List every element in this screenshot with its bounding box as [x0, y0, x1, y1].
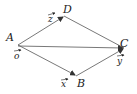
point-label-d: D — [62, 3, 72, 16]
point-label-b: B — [76, 77, 85, 90]
edge-d-c — [64, 16, 124, 48]
vector-label-x: x — [61, 79, 66, 89]
edge-b-c — [76, 49, 123, 76]
edge-a-b — [18, 45, 75, 75]
vector-label-y: y — [116, 56, 123, 66]
point-label-c: C — [120, 37, 129, 50]
vector-diagram: A D C B o z x y — [0, 0, 137, 94]
vector-label-o: o — [14, 51, 20, 61]
edge-a-c — [18, 46, 123, 48]
point-label-a: A — [5, 31, 14, 44]
vector-label-z: z — [47, 14, 53, 24]
edge-a-d — [18, 17, 63, 45]
